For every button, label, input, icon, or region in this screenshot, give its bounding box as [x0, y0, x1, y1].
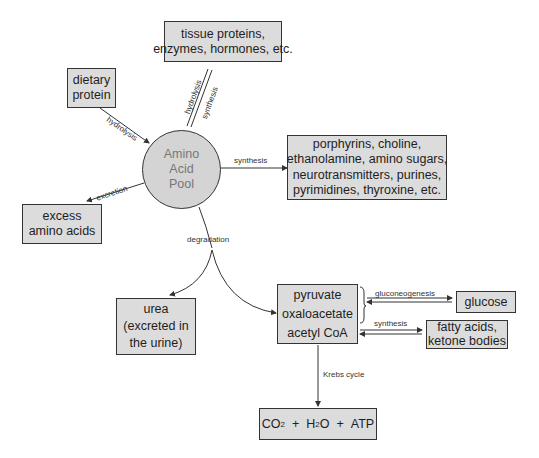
node-text: acetyl CoA: [287, 324, 347, 343]
co2-text: CO: [262, 417, 281, 432]
node-text: protein: [72, 88, 110, 103]
node-text: tissue proteins,: [181, 27, 265, 42]
node-glucose: glucose: [456, 291, 516, 313]
node-excess-amino-acids: excess amino acids: [22, 204, 102, 244]
plus-sign: +: [292, 417, 299, 432]
label-krebs-cycle: Krebs cycle: [323, 370, 364, 379]
subscript: 2: [281, 417, 285, 432]
node-text: urea: [143, 301, 168, 318]
node-text: neurotransmitters, purines,: [293, 168, 442, 184]
node-porphyrins: porphyrins, choline, ethanolamine, amino…: [287, 135, 447, 200]
node-text: pyrimidines, thyroxine, etc.: [293, 183, 441, 199]
node-text: excess: [43, 209, 82, 224]
label-gluconeogenesis: gluconeogenesis: [375, 289, 435, 298]
node-text: amino acids: [29, 224, 96, 239]
node-text: fatty acids,: [437, 321, 497, 335]
atp-text: ATP: [351, 417, 374, 432]
node-text: (excreted in: [123, 318, 188, 335]
pool-text: Acid: [169, 162, 193, 177]
node-products: CO2 + H2O + ATP: [259, 408, 377, 440]
node-intermediates: pyruvate oxaloacetate acetyl CoA: [277, 284, 358, 344]
h2o-text: O: [320, 417, 330, 432]
node-dietary-protein: dietary protein: [67, 68, 116, 108]
label-synthesis: synthesis: [234, 156, 267, 165]
node-text: enzymes, hormones, etc.: [153, 42, 293, 57]
node-tissue-proteins: tissue proteins, enzymes, hormones, etc.: [164, 21, 282, 62]
plus-sign: +: [337, 417, 344, 432]
node-text: ketone bodies: [428, 335, 506, 349]
node-text: porphyrins, choline,: [313, 137, 421, 153]
node-urea: urea (excreted in the urine): [116, 298, 196, 355]
node-text: the urine): [130, 335, 183, 352]
label-fatty-synthesis: synthesis: [374, 319, 407, 328]
node-fatty-acids: fatty acids, ketone bodies: [426, 320, 508, 349]
pool-text: Pool: [169, 177, 194, 192]
pool-text: Amino: [164, 147, 199, 162]
amino-acid-pool: Amino Acid Pool: [142, 130, 221, 209]
node-text: ethanolamine, amino sugars,: [287, 152, 448, 168]
node-text: oxaloacetate: [282, 305, 353, 324]
node-text: dietary: [73, 73, 111, 88]
node-text: pyruvate: [294, 286, 342, 305]
label-degradation: degradation: [187, 235, 229, 244]
node-text: glucose: [464, 295, 507, 310]
h2o-text: H: [306, 417, 315, 432]
